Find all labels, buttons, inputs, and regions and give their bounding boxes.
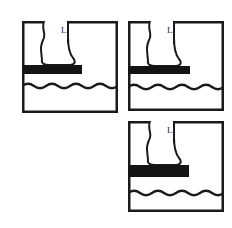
- illustration-panel-3: L: [128, 121, 224, 212]
- leg-label-L: L: [61, 26, 67, 35]
- leg-label-L: L: [167, 26, 173, 35]
- water-surface-wave: [128, 191, 224, 196]
- leg-foot-outline: [41, 21, 75, 65]
- figure-canvas: LLL: [0, 0, 232, 228]
- diving-board: [22, 65, 82, 74]
- illustration-panel-2: L: [128, 21, 224, 111]
- illustration-panel-1: L: [22, 21, 118, 113]
- leg-label-L: L: [167, 126, 173, 135]
- water-surface-wave: [128, 85, 224, 90]
- diving-board: [128, 165, 189, 177]
- water-surface-wave: [22, 84, 118, 89]
- leg-foot-outline: [147, 21, 181, 66]
- diving-board: [128, 66, 190, 74]
- leg-foot-outline: [147, 121, 181, 165]
